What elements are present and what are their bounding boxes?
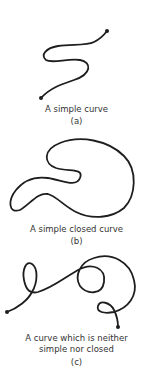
simple-curve (41, 31, 107, 98)
simple-curve-end-point (105, 29, 109, 33)
caption-non-simple-line1: A curve which is neither (0, 333, 153, 343)
caption-simple-curve: A simple curve (0, 104, 153, 114)
curves-figure (0, 0, 153, 367)
sublabel-a: (a) (0, 116, 153, 126)
sublabel-b: (b) (0, 236, 153, 246)
non-simple-open-curve (7, 256, 135, 327)
non-simple-curve-start-point (5, 310, 9, 314)
sublabel-c: (c) (0, 357, 153, 367)
non-simple-curve-end-point (116, 325, 120, 329)
simple-closed-curve (10, 139, 133, 217)
simple-curve-start-point (39, 96, 43, 100)
caption-non-simple-line2: simple nor closed (0, 344, 153, 354)
caption-simple-closed-curve: A simple closed curve (0, 224, 153, 234)
